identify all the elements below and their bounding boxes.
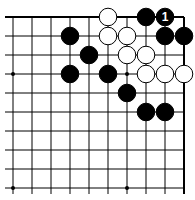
star-point [11, 72, 15, 76]
white-stone [156, 65, 174, 83]
black-stone [156, 103, 174, 121]
black-stone [137, 8, 155, 26]
white-stone [118, 27, 136, 45]
go-board: 1 [0, 0, 195, 200]
white-stone [175, 65, 193, 83]
black-stone [118, 84, 136, 102]
white-stone [99, 27, 117, 45]
black-stone [137, 103, 155, 121]
black-stone [175, 27, 193, 45]
white-stone [137, 46, 155, 64]
star-point [11, 186, 15, 190]
black-stone [99, 65, 117, 83]
star-point [125, 186, 129, 190]
white-stone [99, 8, 117, 26]
black-stone [61, 27, 79, 45]
black-stone [156, 27, 174, 45]
move-number: 1 [162, 10, 169, 24]
star-point [125, 72, 129, 76]
white-stone [137, 65, 155, 83]
black-stone [61, 65, 79, 83]
black-stone [80, 46, 98, 64]
white-stone [118, 46, 136, 64]
